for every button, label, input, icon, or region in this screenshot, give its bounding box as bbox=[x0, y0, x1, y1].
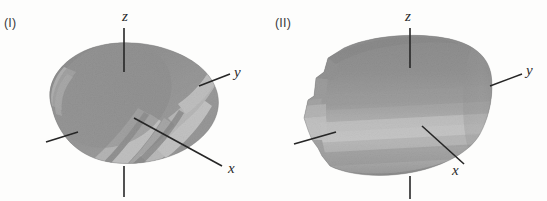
axis-label-x-i: x bbox=[228, 160, 235, 177]
axis-label-x-ii: x bbox=[452, 162, 459, 179]
axis-label-y-ii: y bbox=[526, 62, 533, 79]
cylinder-render-ii bbox=[274, 0, 547, 201]
panel-figure-i: (I) bbox=[0, 0, 273, 201]
panel-figure-ii: (II) bbox=[274, 0, 547, 201]
axis-label-z-ii: z bbox=[405, 8, 411, 25]
axis-label-z-i: z bbox=[122, 8, 128, 25]
figure-canvas: (I) bbox=[0, 0, 547, 201]
axis-label-y-i: y bbox=[234, 64, 241, 81]
